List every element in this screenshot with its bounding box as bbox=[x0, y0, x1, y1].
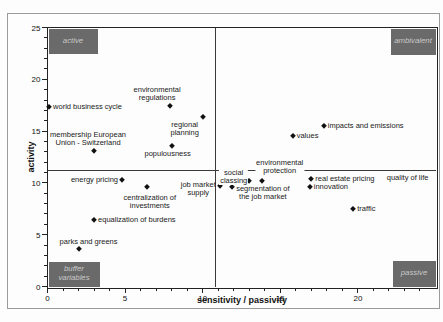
data-point-marker bbox=[91, 148, 97, 154]
x-tick-label: 5 bbox=[123, 294, 127, 303]
data-point-marker bbox=[119, 177, 125, 183]
plot-area: active ambivalent buffer variables passi… bbox=[47, 27, 438, 289]
quadrant-box-buffer-variables: buffer variables bbox=[49, 262, 100, 287]
y-axis-title: activity bbox=[26, 141, 36, 172]
data-point-label: equalization of burdens bbox=[98, 216, 176, 224]
y-minor-tick bbox=[44, 193, 47, 194]
x-minor-tick bbox=[342, 288, 343, 291]
data-point-label: quality of life bbox=[387, 174, 429, 182]
y-minor-tick bbox=[44, 224, 47, 225]
x-minor-tick bbox=[388, 288, 389, 291]
x-minor-tick bbox=[419, 288, 420, 291]
y-tick-label: 10 bbox=[32, 178, 41, 187]
x-minor-tick bbox=[326, 288, 327, 291]
x-axis-title: sensitivity / passivity bbox=[197, 295, 287, 305]
y-minor-tick bbox=[44, 37, 47, 38]
data-point-marker bbox=[144, 184, 150, 190]
x-minor-tick bbox=[63, 288, 64, 291]
data-point-label: regionalplanning bbox=[171, 121, 199, 137]
y-tick-label: 20 bbox=[32, 75, 41, 84]
y-minor-tick bbox=[44, 48, 47, 49]
figure-canvas: active ambivalent buffer variables passi… bbox=[0, 0, 443, 322]
x-minor-tick bbox=[404, 288, 405, 291]
x-minor-tick bbox=[156, 288, 157, 291]
data-point-label: parks and greens bbox=[60, 238, 118, 246]
y-major-tick bbox=[42, 79, 47, 80]
quadrant-box-ambivalent: ambivalent bbox=[391, 29, 436, 55]
y-minor-tick bbox=[44, 162, 47, 163]
data-point-label: populousness bbox=[145, 150, 191, 158]
data-point-label: segmentation ofthe job market bbox=[236, 185, 289, 201]
y-major-tick bbox=[42, 131, 47, 132]
y-minor-tick bbox=[44, 100, 47, 101]
x-tick-label: 20 bbox=[353, 294, 362, 303]
y-minor-tick bbox=[44, 89, 47, 90]
y-minor-tick bbox=[44, 110, 47, 111]
data-point-label: world business cycle bbox=[53, 103, 122, 111]
data-point-marker bbox=[290, 133, 296, 139]
x-minor-tick bbox=[94, 288, 95, 291]
quadrant-label-buffer-variables: buffer variables bbox=[54, 265, 94, 282]
quadrant-label-active: active bbox=[63, 37, 83, 46]
data-point-label: socialclassing bbox=[219, 169, 248, 185]
data-point-marker bbox=[350, 206, 356, 212]
y-minor-tick bbox=[44, 245, 47, 246]
y-minor-tick bbox=[44, 276, 47, 277]
data-point-label: impacts and emissions bbox=[328, 122, 404, 130]
y-tick-label: 0 bbox=[36, 282, 40, 291]
y-minor-tick bbox=[44, 58, 47, 59]
x-tick-label: 0 bbox=[45, 294, 49, 303]
y-minor-tick bbox=[44, 172, 47, 173]
quadrant-box-active: active bbox=[49, 29, 98, 54]
quadrant-label-ambivalent: ambivalent bbox=[394, 37, 432, 46]
data-point-marker bbox=[76, 246, 82, 252]
y-tick-label: 25 bbox=[32, 23, 41, 32]
x-minor-tick bbox=[140, 288, 141, 291]
y-minor-tick bbox=[44, 213, 47, 214]
y-minor-tick bbox=[44, 141, 47, 142]
data-point-label: environmentalregulations bbox=[134, 86, 181, 102]
x-major-tick bbox=[357, 288, 358, 293]
data-point-label: environmentalprotection bbox=[255, 159, 304, 175]
x-major-tick bbox=[125, 288, 126, 293]
y-minor-tick bbox=[44, 151, 47, 152]
x-minor-tick bbox=[311, 288, 312, 291]
data-point-marker bbox=[91, 217, 97, 223]
x-minor-tick bbox=[187, 288, 188, 291]
y-major-tick bbox=[42, 286, 47, 287]
data-point-marker bbox=[229, 184, 235, 190]
y-tick-label: 15 bbox=[32, 127, 41, 136]
data-point-marker bbox=[321, 123, 327, 129]
y-major-tick bbox=[42, 27, 47, 28]
data-point-label: job marketsupply bbox=[181, 181, 216, 197]
data-point-marker bbox=[307, 184, 313, 190]
y-major-tick bbox=[42, 182, 47, 183]
data-point-label: membership EuropeanUnion - Switzerland bbox=[50, 131, 126, 147]
data-point-marker bbox=[308, 176, 314, 182]
x-major-tick bbox=[47, 288, 48, 293]
x-minor-tick bbox=[78, 288, 79, 291]
x-minor-tick bbox=[171, 288, 172, 291]
y-major-tick bbox=[42, 234, 47, 235]
x-minor-tick bbox=[264, 288, 265, 291]
data-point-marker bbox=[200, 114, 206, 120]
x-minor-tick bbox=[218, 288, 219, 291]
data-point-label: energy pricing bbox=[71, 176, 118, 184]
x-minor-tick bbox=[249, 288, 250, 291]
data-point-label: innovation bbox=[314, 183, 348, 191]
y-minor-tick bbox=[44, 68, 47, 69]
y-minor-tick bbox=[44, 203, 47, 204]
x-minor-tick bbox=[233, 288, 234, 291]
quadrant-label-passive: passive bbox=[401, 269, 427, 278]
y-minor-tick bbox=[44, 255, 47, 256]
x-minor-tick bbox=[109, 288, 110, 291]
data-point-marker bbox=[167, 103, 173, 109]
x-major-tick bbox=[280, 288, 281, 293]
data-point-marker bbox=[259, 178, 265, 184]
data-point-label: traffic bbox=[357, 205, 375, 213]
quadrant-box-passive: passive bbox=[393, 261, 436, 287]
y-minor-tick bbox=[44, 265, 47, 266]
quadrant-line-vertical bbox=[215, 28, 216, 287]
data-point-label: centralization ofinvestments bbox=[124, 194, 177, 210]
x-minor-tick bbox=[373, 288, 374, 291]
